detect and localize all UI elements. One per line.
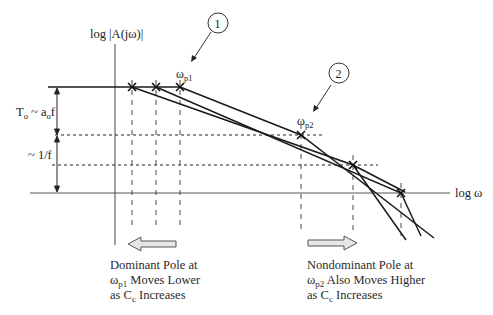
callout-2: 2 xyxy=(313,63,349,112)
loop-gain-label: To ~ aof xyxy=(16,105,56,121)
dominant-pole-caption: Dominant Pole at ωp1 Moves Lower as Cc I… xyxy=(110,258,200,303)
inverse-feedback-label: ~ 1/f xyxy=(28,148,53,162)
svg-text:1: 1 xyxy=(215,17,221,31)
loop-gain-dashed-levels xyxy=(52,135,378,165)
arrow-right-icon xyxy=(308,236,357,250)
callout-arrowhead-icon xyxy=(313,105,319,112)
curve-1 xyxy=(132,87,406,240)
nondominant-pole-caption: Nondominant Pole at ωp2 Also Moves Highe… xyxy=(307,258,425,303)
bode-diagram: log |A(jω)| log ω xyxy=(0,0,493,315)
callout-1: 1 xyxy=(191,13,228,62)
arrow-left-icon xyxy=(128,237,176,251)
y-axis-label: log |A(jω)| xyxy=(90,27,143,41)
curve-3 xyxy=(180,87,434,238)
x-axis-label: log ω xyxy=(455,186,482,200)
dimension-arrows xyxy=(55,88,60,192)
pole-dashed-verticals-high xyxy=(301,124,401,236)
magnitude-curves xyxy=(48,87,434,240)
pole-dashed-verticals-low xyxy=(132,80,180,230)
curve-1-extension xyxy=(353,165,405,192)
omega-p1-label: ωp1 xyxy=(176,67,192,83)
omega-p2-label: ωp2 xyxy=(297,114,313,130)
svg-text:2: 2 xyxy=(336,67,342,81)
callout-arrowhead-icon xyxy=(191,55,197,62)
